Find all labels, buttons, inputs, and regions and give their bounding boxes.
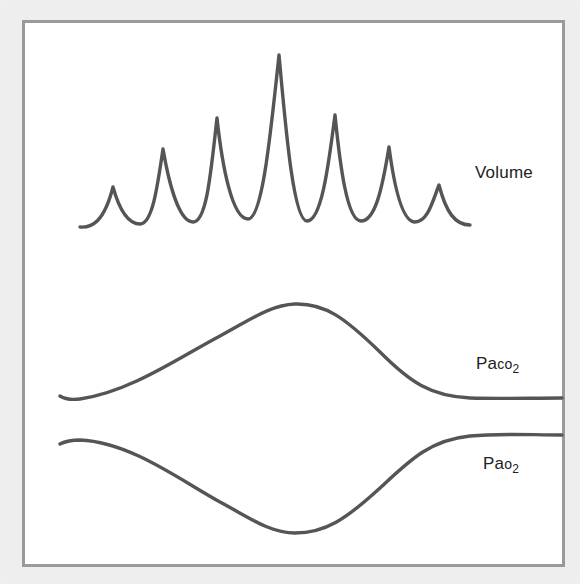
paco2-label-small: co (497, 356, 512, 372)
diagram-canvas (0, 0, 580, 584)
pao2-label-small: o (504, 456, 512, 472)
paco2-label: Paco2 (476, 355, 519, 372)
paco2-label-sub: 2 (512, 362, 519, 376)
pao2-trace (60, 434, 562, 533)
volume-trace (80, 55, 470, 227)
pao2-label-main: Pa (483, 454, 504, 473)
pao2-label-sub: 2 (512, 462, 519, 476)
volume-label: Volume (475, 164, 533, 181)
volume-label-text: Volume (475, 163, 533, 182)
pao2-label: Pao2 (483, 455, 519, 472)
paco2-label-main: Pa (476, 354, 497, 373)
paco2-trace (60, 304, 562, 400)
